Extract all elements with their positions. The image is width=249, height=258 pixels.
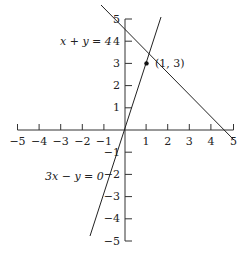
svg-text:−2: −2 bbox=[74, 135, 90, 148]
svg-text:−4: −4 bbox=[104, 212, 120, 225]
svg-text:4: 4 bbox=[207, 135, 214, 148]
svg-text:2: 2 bbox=[164, 135, 171, 148]
svg-text:2: 2 bbox=[113, 79, 120, 92]
coordinate-plane: −5 −4 −3 −2 −1 1 2 3 4 5 5 4 3 2 1 −1 −2… bbox=[0, 0, 249, 258]
svg-text:1: 1 bbox=[113, 101, 120, 114]
svg-text:3: 3 bbox=[113, 57, 120, 70]
label-point-1-3: (1, 3) bbox=[155, 57, 185, 70]
svg-text:−3: −3 bbox=[53, 135, 69, 148]
intersection-point bbox=[144, 61, 148, 65]
label-3x-minus-y-eq-0: 3x − y = 0 bbox=[45, 170, 104, 183]
svg-text:−3: −3 bbox=[104, 190, 120, 203]
svg-text:5: 5 bbox=[113, 13, 120, 26]
svg-text:4: 4 bbox=[113, 35, 120, 48]
svg-text:3: 3 bbox=[186, 135, 193, 148]
x-tick-labels: −5 −4 −3 −2 −1 1 2 3 4 5 bbox=[9, 135, 237, 148]
svg-text:−4: −4 bbox=[31, 135, 47, 148]
svg-text:1: 1 bbox=[143, 135, 150, 148]
svg-text:−5: −5 bbox=[9, 135, 25, 148]
line-x-plus-y-eq-4 bbox=[101, 5, 234, 140]
svg-text:−5: −5 bbox=[104, 235, 120, 248]
label-x-plus-y-eq-4: x + y = 4 bbox=[60, 35, 112, 48]
